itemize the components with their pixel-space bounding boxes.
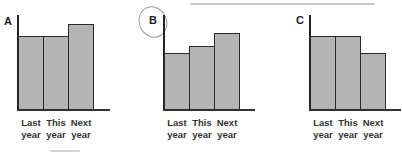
panel-label-a: A	[4, 15, 12, 27]
bar-next-year	[214, 33, 240, 110]
x-tick-label: Next year	[68, 117, 94, 140]
pencil-mark-bottom	[50, 150, 80, 152]
x-tick-label: Next year	[214, 117, 240, 140]
bar-next-year	[360, 53, 386, 110]
panel-label-c: C	[296, 14, 304, 26]
x-tick-label: Last year	[18, 117, 44, 140]
bar-last-year	[164, 53, 190, 110]
pencil-mark-top	[190, 3, 375, 5]
x-tick-label: This year	[189, 117, 215, 140]
bar-last-year	[310, 36, 336, 110]
bar-this-year	[43, 36, 69, 110]
x-tick-label: This year	[43, 117, 69, 140]
x-tick-label: Last year	[310, 117, 336, 140]
x-tick-label: Next year	[360, 117, 386, 140]
bar-next-year	[68, 24, 94, 110]
bar-this-year	[335, 36, 361, 110]
x-tick-label: Last year	[164, 117, 190, 140]
bar-last-year	[18, 36, 44, 110]
x-tick-label: This year	[335, 117, 361, 140]
panel-label-b: B	[149, 14, 157, 26]
bar-this-year	[189, 46, 215, 110]
